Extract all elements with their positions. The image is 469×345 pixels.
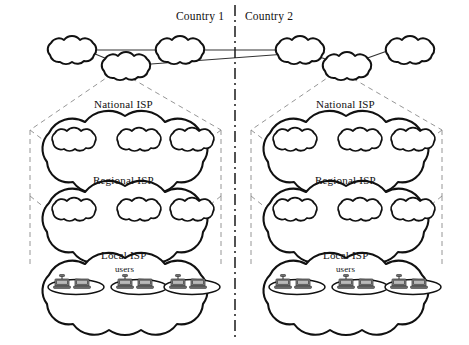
- users-label-country-1: users: [115, 264, 134, 274]
- national-isp-label-country-2: National ISP: [316, 98, 375, 110]
- internet-hierarchy-diagram: Country 1 Country 2 National ISP Nationa…: [0, 0, 469, 345]
- border-layer: [0, 0, 469, 345]
- regional-isp-label-country-2: Regional ISP: [315, 174, 376, 186]
- national-isp-label-country-1: National ISP: [94, 98, 153, 110]
- users-label-country-2: users: [336, 264, 355, 274]
- country-1-label: Country 1: [176, 10, 224, 22]
- country-2-label: Country 2: [245, 10, 293, 22]
- regional-isp-label-country-1: Regional ISP: [93, 174, 154, 186]
- local-isp-label-country-2: Local ISP: [323, 249, 369, 261]
- local-isp-label-country-1: Local ISP: [101, 249, 147, 261]
